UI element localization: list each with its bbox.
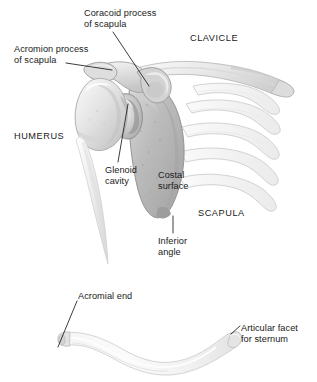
- label-clavicle: CLAVICLE: [190, 33, 238, 44]
- label-acromion-process: Acromion process of scapula: [14, 44, 88, 66]
- label-scapula: SCAPULA: [198, 208, 245, 219]
- label-glenoid-cavity: Glenoid cavity: [105, 165, 137, 187]
- clavicle-isolated: [58, 332, 242, 375]
- label-humerus: HUMERUS: [14, 131, 64, 142]
- label-costal-surface: Costal surface: [158, 170, 188, 192]
- label-articular-facet-for-sternum: Articular facet for sternum: [241, 323, 298, 345]
- rib-cage: [180, 83, 280, 211]
- label-coracoid-process: Coracoid process of scapula: [84, 8, 156, 30]
- label-acromial-end: Acromial end: [78, 291, 132, 302]
- anatomy-figure: Coracoid process of scapula Acromion pro…: [0, 0, 317, 382]
- label-inferior-angle: Inferior angle: [158, 236, 187, 258]
